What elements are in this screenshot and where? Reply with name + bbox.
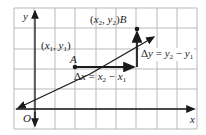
origin-label: O xyxy=(23,113,31,124)
point-A xyxy=(73,65,78,70)
delta-y-label: Δy = y2 − y1 xyxy=(140,48,194,61)
y-axis-label: y xyxy=(23,11,28,22)
point-A-label: A xyxy=(70,54,77,65)
point-B-label: (x2, y2)B xyxy=(90,14,126,27)
point-A-coords: (x1, y1) xyxy=(41,40,71,53)
delta-x-label: Δx = x2 − x1 xyxy=(74,71,126,84)
x-axis-label: x xyxy=(190,114,195,125)
point-B xyxy=(135,27,140,32)
